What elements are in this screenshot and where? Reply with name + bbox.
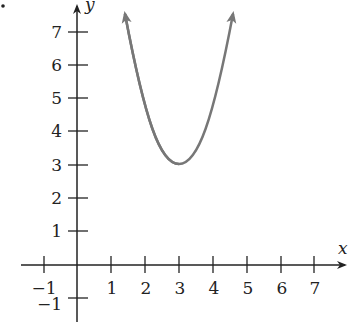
x-tick-label: 2 — [141, 278, 152, 298]
y-tick-label: 5 — [51, 88, 62, 108]
y-tick-label: 7 — [51, 22, 62, 42]
x-tick-label: 4 — [209, 278, 220, 298]
y-ticks — [68, 32, 88, 298]
y-tick-label: 6 — [51, 55, 62, 75]
x-tick-label: 7 — [310, 278, 321, 298]
corner-dot — [1, 4, 5, 8]
x-tick-label: 5 — [243, 278, 254, 298]
x-tick-label: 6 — [277, 278, 288, 298]
y-tick-label: 4 — [51, 121, 62, 141]
x-axis-label: x — [338, 238, 348, 258]
y-axis-label: y — [84, 0, 95, 14]
parabola-chart: −1 1 2 3 4 5 6 7 −1 1 2 3 4 5 6 7 x y — [0, 0, 359, 326]
y-tick-label: 2 — [51, 188, 62, 208]
x-tick-label: 3 — [175, 278, 186, 298]
y-tick-label: 1 — [51, 221, 62, 241]
y-tick-label: 3 — [51, 155, 62, 175]
y-tick-label: −1 — [37, 294, 62, 314]
x-tick-label: 1 — [107, 278, 118, 298]
parabola-left-arrow — [125, 14, 179, 164]
